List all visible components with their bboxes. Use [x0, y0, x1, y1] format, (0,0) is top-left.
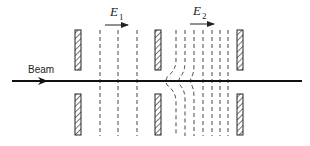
field-1-symbol: E	[109, 4, 118, 19]
field-1-subscript: 1	[119, 12, 124, 22]
electrode-left	[75, 30, 81, 135]
field-line-curved	[179, 30, 185, 136]
electrode-left-lower	[75, 94, 81, 135]
electrode-left-upper	[75, 30, 81, 70]
beam-electrode-diagram: Beam E 1 E 2	[0, 0, 310, 146]
field-line-curved	[191, 30, 195, 136]
field-lines-region-1	[100, 30, 137, 136]
electrode-middle	[155, 30, 161, 135]
electrode-right-upper	[237, 30, 243, 70]
field-1-label: E 1	[105, 4, 128, 25]
electrode-right-lower	[237, 94, 243, 135]
electrode-middle-lower	[155, 94, 161, 135]
field-lines-region-2	[166, 30, 228, 136]
field-line-curved	[166, 30, 176, 136]
field-2-symbol: E	[192, 3, 201, 18]
beam-label: Beam	[28, 64, 54, 75]
field-2-label: E 2	[190, 3, 214, 24]
field-2-subscript: 2	[202, 11, 207, 21]
electrode-right	[237, 30, 243, 135]
electrode-middle-upper	[155, 30, 161, 70]
